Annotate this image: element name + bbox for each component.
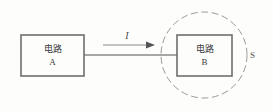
diagram-canvas: 电路 A 电路 B I S [0, 0, 273, 112]
circuit-a-designator: A [49, 57, 56, 67]
closed-surface-label: S [250, 50, 255, 60]
circuit-b-designator: B [201, 57, 207, 67]
circuit-b-box [177, 35, 232, 76]
circuit-current-flux-diagram: 电路 A 电路 B I S [0, 0, 273, 112]
current-symbol-label: I [124, 30, 129, 41]
current-arrow-head [146, 42, 155, 49]
circuit-a-title: 电路 [44, 43, 62, 54]
circuit-b-title: 电路 [196, 43, 214, 54]
circuit-a-box [21, 35, 84, 76]
